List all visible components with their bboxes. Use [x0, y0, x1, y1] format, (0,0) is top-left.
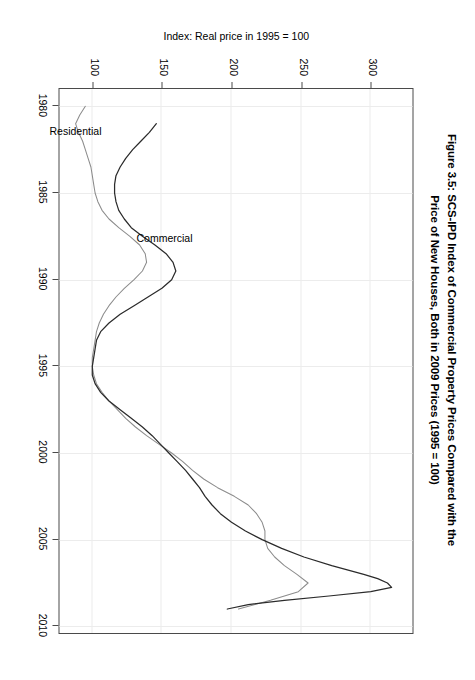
x-axis-tick-label: 1980: [36, 82, 48, 128]
y-axis-tick-label: 200: [227, 36, 239, 76]
series-line-commercial: [92, 124, 391, 609]
y-axis-tick-label: 100: [88, 36, 100, 76]
y-axis-tick-label: 300: [366, 36, 378, 76]
x-axis-tick: [52, 105, 58, 106]
y-axis-tick: [370, 82, 371, 88]
series-line-residential: [75, 106, 307, 609]
x-axis-tick-label: 2000: [36, 429, 48, 475]
y-axis-tick: [231, 82, 232, 88]
figure-title-line-2: Price of New Houses, Both in 2009 Prices…: [426, 0, 443, 680]
series-label-commercial: Commercial: [136, 232, 192, 244]
y-axis-tick-label: 150: [157, 36, 169, 76]
x-axis-tick: [52, 625, 58, 626]
x-axis-tick: [52, 539, 58, 540]
y-axis-tick: [92, 82, 93, 88]
y-axis-tick: [161, 82, 162, 88]
figure-title-line-1: Figure 3.5: SCS-IPD Index of Commercial …: [445, 134, 457, 546]
figure-page: Figure 3.5: SCS-IPD Index of Commercial …: [0, 0, 475, 680]
series-label-residential: Residential: [49, 125, 101, 137]
y-axis-tick: [301, 82, 302, 88]
x-axis-tick: [52, 365, 58, 366]
x-axis-tick-label: 1995: [36, 342, 48, 388]
x-axis-tick: [52, 192, 58, 193]
x-axis-tick-label: 1990: [36, 256, 48, 302]
figure-title: Figure 3.5: SCS-IPD Index of Commercial …: [426, 0, 459, 680]
chart-figure: Figure 3.5: SCS-IPD Index of Commercial …: [0, 0, 475, 680]
x-axis-tick-label: 2005: [36, 516, 48, 562]
plot-area: Commercial Residential: [58, 88, 413, 634]
x-axis-tick: [52, 452, 58, 453]
x-axis-tick: [52, 279, 58, 280]
data-lines: [57, 89, 412, 635]
y-axis-tick-label: 250: [297, 36, 309, 76]
x-axis-tick-label: 1985: [36, 169, 48, 215]
x-axis-tick-label: 2010: [36, 602, 48, 648]
